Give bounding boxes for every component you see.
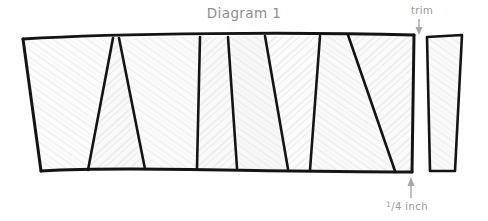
trim-label: trim xyxy=(411,5,433,16)
quarter-inch-label: 1/4 inch xyxy=(386,200,428,212)
diagram-canvas: Diagram 1 trim 1/4 inch xyxy=(0,0,488,221)
fraction-denominator: 4 xyxy=(395,201,402,212)
measurement-unit-text: inch xyxy=(405,201,428,212)
trim-arrow-icon xyxy=(416,19,423,35)
quarter-inch-arrow-icon xyxy=(408,177,415,198)
trim-strip xyxy=(427,35,462,171)
diagram-illustration xyxy=(0,0,488,221)
